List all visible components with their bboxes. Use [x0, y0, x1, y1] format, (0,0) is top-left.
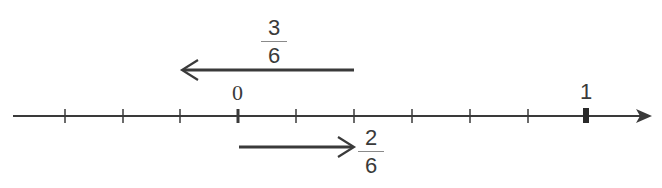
label-zero: 0 — [232, 82, 243, 104]
fraction-bar — [358, 151, 384, 152]
fraction-numerator: 2 — [365, 127, 377, 149]
fraction-denominator: 6 — [365, 155, 377, 177]
fraction-two-sixths: 2 6 — [358, 127, 384, 177]
label-one: 1 — [580, 81, 592, 103]
fraction-numerator: 3 — [268, 17, 280, 39]
fraction-denominator: 6 — [268, 45, 280, 67]
tick-one — [583, 108, 589, 123]
arrow-add-two-sixths — [239, 137, 354, 157]
fraction-three-sixths: 3 6 — [261, 17, 287, 67]
number-line-graphic — [0, 0, 662, 188]
fraction-bar — [261, 41, 287, 42]
number-line-axis — [13, 109, 652, 123]
number-line-diagram: 0 1 3 6 2 6 — [0, 0, 662, 188]
